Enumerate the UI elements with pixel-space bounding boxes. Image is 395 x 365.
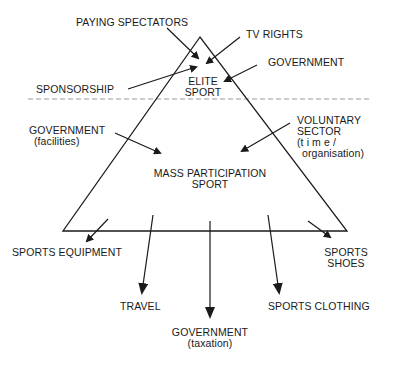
sponsorship-label: SPONSORSHIP [36, 84, 114, 95]
arrow-travel [142, 215, 153, 292]
government-elite-label: GOVERNMENT [268, 57, 344, 68]
arrow-government-facilities [115, 133, 160, 153]
government-facilities-sub: (facilities) [29, 136, 105, 147]
sports-clothing-label: SPORTS CLOTHING [268, 301, 370, 312]
paying-spectators-label: PAYING SPECTATORS [76, 17, 188, 28]
government-facilities-label: GOVERNMENT (facilities) [29, 125, 105, 147]
mass-participation-line2: SPORT [145, 179, 275, 190]
travel-label: TRAVEL [120, 301, 161, 312]
mass-participation-sport-label: MASS PARTICIPATION SPORT [145, 168, 275, 190]
government-taxation-sub: (taxation) [168, 338, 252, 349]
elite-sport-label: ELITE SPORT [182, 76, 224, 98]
arrow-tv-rights [207, 37, 240, 63]
arrow-sports-shoes [308, 221, 330, 237]
government-taxation-label: GOVERNMENT (taxation) [168, 327, 252, 349]
arrow-government-elite [225, 65, 257, 81]
voluntary-sector-sub2: organisation) [297, 148, 364, 159]
sports-shoes-label: SPORTS SHOES [320, 247, 372, 269]
arrow-sports-clothing [268, 215, 279, 292]
sports-equipment-label: SPORTS EQUIPMENT [12, 247, 122, 258]
sports-shoes-line2: SHOES [320, 258, 372, 269]
arrow-paying-spectators [167, 28, 198, 58]
voluntary-sector-label: VOLUNTARY SECTOR (t i m e / organisation… [297, 115, 364, 159]
elite-sport-line2: SPORT [182, 87, 224, 98]
arrow-sports-equipment [87, 219, 108, 241]
tv-rights-label: TV RIGHTS [246, 29, 303, 40]
